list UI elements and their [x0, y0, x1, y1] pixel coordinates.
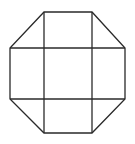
octagon-outline	[10, 12, 125, 133]
octagon-grid-figure	[0, 0, 135, 144]
diagram-canvas	[0, 0, 135, 144]
